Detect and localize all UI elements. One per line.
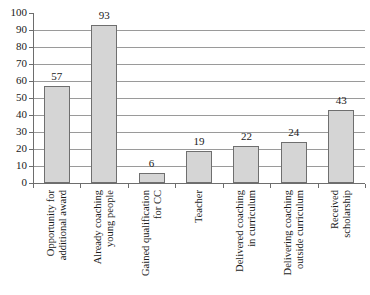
x-axis-category-label: Opportunity foradditional award	[45, 190, 69, 260]
x-axis-category-label: Receivedscholarship	[329, 190, 353, 238]
bar-value-label: 19	[193, 136, 204, 147]
x-axis-category-label: Delivering coachingoutside curriculum	[282, 190, 306, 275]
bar-value-label: 43	[336, 95, 347, 106]
y-axis-tick-label: 30	[0, 126, 27, 137]
bar-slot: 57	[33, 13, 80, 183]
bar[interactable]	[281, 142, 307, 183]
x-axis-category-label-line: outside curriculum	[294, 190, 306, 275]
bar[interactable]	[328, 110, 354, 183]
x-axis-tick	[33, 184, 34, 188]
x-axis-category-label: Delivered coachingin curriculum	[234, 190, 258, 272]
x-axis-ticks	[33, 184, 365, 189]
x-axis-category-label-line: Already coaching	[92, 190, 103, 264]
x-axis-category-label-line: Opportunity for	[45, 190, 56, 256]
x-axis-category-label-line: for CC	[152, 190, 164, 276]
x-axis-category-label: Teacher	[193, 190, 205, 223]
bar-slot: 22	[223, 13, 270, 183]
bar-value-label: 24	[288, 127, 299, 138]
x-axis-category-labels: Opportunity foradditional awardAlready c…	[33, 190, 365, 295]
bar-value-label: 6	[149, 158, 155, 169]
bar-slot: 24	[270, 13, 317, 183]
x-label-slot: Delivering coachingoutside curriculum	[270, 190, 317, 295]
x-axis-category-label-line: Delivered coaching	[234, 190, 245, 272]
y-axis-tick-label: 20	[0, 143, 27, 154]
x-axis-category-label-line: additional award	[57, 190, 69, 260]
bar[interactable]	[139, 173, 165, 183]
x-axis-category-label: Already coachingyoung people	[92, 190, 116, 264]
bar[interactable]	[44, 86, 70, 183]
bar[interactable]	[91, 25, 117, 183]
y-axis-tick-label: 0	[0, 177, 27, 188]
x-axis-tick	[80, 184, 81, 188]
bar-slot: 19	[175, 13, 222, 183]
x-label-slot: Gained qualificationfor CC	[128, 190, 175, 295]
bar-value-label: 93	[99, 10, 110, 21]
x-axis-category-label: Gained qualificationfor CC	[140, 190, 164, 276]
x-axis-category-label-line: Gained qualification	[140, 190, 151, 276]
x-label-slot: Already coachingyoung people	[80, 190, 127, 295]
x-label-slot: Delivered coachingin curriculum	[223, 190, 270, 295]
y-axis-tick-label: 90	[0, 24, 27, 35]
bar[interactable]	[233, 146, 259, 183]
y-axis-tick-label: 50	[0, 92, 27, 103]
x-label-slot: Opportunity foradditional award	[33, 190, 80, 295]
bar-value-label: 57	[51, 71, 62, 82]
bar[interactable]	[186, 151, 212, 183]
x-axis-tick	[318, 184, 319, 188]
x-axis-tick	[175, 184, 176, 188]
y-axis-tick-label: 80	[0, 41, 27, 52]
x-axis-category-label-line: Delivering coaching	[282, 190, 293, 275]
x-axis-tick	[270, 184, 271, 188]
x-axis-category-label-line: in curriculum	[246, 190, 258, 272]
x-axis-tick	[128, 184, 129, 188]
x-label-slot: Teacher	[175, 190, 222, 295]
x-axis-tick	[223, 184, 224, 188]
y-axis-tick-label: 40	[0, 109, 27, 120]
y-axis-tick-label: 10	[0, 160, 27, 171]
y-axis-tick-label: 70	[0, 58, 27, 69]
x-axis-category-label-line: Teacher	[193, 190, 204, 223]
x-axis-category-label-line: young people	[104, 190, 116, 264]
y-axis-tick-label: 100	[0, 7, 27, 18]
bar-slot: 6	[128, 13, 175, 183]
x-axis-category-label-line: scholarship	[341, 190, 353, 238]
x-axis-tick	[365, 184, 366, 188]
bar-slot: 93	[80, 13, 127, 183]
y-axis-tick-labels: 0102030405060708090100	[0, 0, 28, 295]
y-axis-tick-label: 60	[0, 75, 27, 86]
x-label-slot: Receivedscholarship	[318, 190, 365, 295]
bar-chart: 0102030405060708090100 5793619222443 Opp…	[0, 0, 370, 295]
x-axis-category-label-line: Received	[329, 190, 340, 229]
bars-layer: 5793619222443	[33, 13, 365, 183]
bar-value-label: 22	[241, 131, 252, 142]
bar-slot: 43	[318, 13, 365, 183]
